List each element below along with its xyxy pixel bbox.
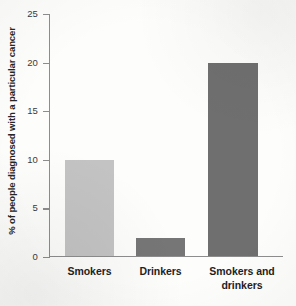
y-tick-label-10: 10 <box>0 154 38 165</box>
bar-smokers-fill <box>65 160 114 257</box>
y-tick-label-5: 5 <box>0 202 38 213</box>
x-category-label-smokers-and-drinkers: Smokers and drinkers <box>196 265 288 292</box>
bar-drinkers <box>136 238 185 257</box>
bar-chart: % of people diagnosed with a particular … <box>0 0 296 306</box>
y-tick-label-25: 25 <box>0 8 38 19</box>
x-category-label-smokers-and-drinkers-line2: drinkers <box>196 279 288 293</box>
x-category-label-smokers-and-drinkers-line1: Smokers and <box>196 265 288 279</box>
x-category-label-drinkers-line1: Drinkers <box>124 265 197 279</box>
x-axis-line <box>49 256 283 257</box>
bar-smokers-and-drinkers-fill <box>208 63 258 257</box>
y-axis-title: % of people diagnosed with a particular … <box>0 0 22 262</box>
bar-drinkers-fill <box>136 238 185 257</box>
y-tick-label-15: 15 <box>0 105 38 116</box>
y-tick-label-20: 20 <box>0 57 38 68</box>
bar-smokers <box>65 160 114 257</box>
y-axis-line <box>49 14 50 258</box>
x-category-label-smokers: Smokers <box>50 265 129 279</box>
y-tick-label-0: 0 <box>0 251 38 262</box>
bar-smokers-and-drinkers <box>208 63 258 257</box>
x-category-label-drinkers: Drinkers <box>124 265 197 279</box>
x-category-label-smokers-line1: Smokers <box>50 265 129 279</box>
